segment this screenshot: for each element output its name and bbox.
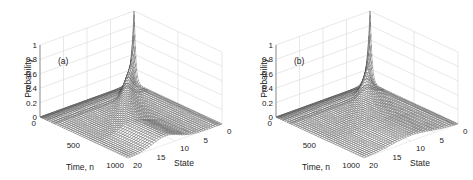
- time-tick-label: 500: [303, 141, 317, 150]
- state-tick-label: 10: [416, 144, 425, 153]
- state-tick-label: 20: [133, 161, 142, 170]
- surface-plot-a: 00.20.40.60.810500100005101520Probabilit…: [0, 0, 236, 180]
- mesh-surface: [276, 11, 458, 158]
- state-tick-label: 5: [204, 136, 209, 145]
- state-tick-label: 5: [440, 136, 445, 145]
- state-tick-label: 15: [393, 153, 402, 162]
- time-tick-label: 500: [67, 141, 81, 150]
- panel-label: (b): [294, 56, 305, 66]
- time-axis-label: Time, n: [302, 162, 330, 172]
- state-axis-label: State: [410, 158, 430, 168]
- surface-plot-b: 00.20.40.60.810500100005101520Probabilit…: [236, 0, 472, 180]
- time-tick-label: 0: [268, 119, 273, 128]
- z-tick-label: 1: [33, 41, 38, 50]
- plot-canvas-b: 00.20.40.60.810500100005101520Probabilit…: [236, 0, 472, 180]
- state-tick-label: 15: [157, 153, 166, 162]
- mesh-surface: [40, 11, 222, 158]
- time-tick-label: 1000: [342, 161, 360, 170]
- state-axis-label: State: [174, 158, 194, 168]
- time-tick-label: 0: [32, 119, 37, 128]
- z-tick-label: 1: [269, 41, 274, 50]
- state-tick-label: 0: [227, 127, 232, 136]
- time-axis-label: Time, n: [66, 162, 94, 172]
- z-axis-label: Probability: [259, 57, 269, 97]
- plot-canvas-a: 00.20.40.60.810500100005101520Probabilit…: [0, 0, 236, 180]
- state-tick-label: 10: [180, 144, 189, 153]
- z-tick-label: 0.2: [262, 99, 274, 108]
- z-tick-label: 0.2: [26, 99, 38, 108]
- state-tick-label: 20: [369, 161, 378, 170]
- panel-label: (a): [58, 56, 69, 66]
- state-tick-label: 0: [463, 127, 468, 136]
- z-axis-label: Probability: [23, 57, 33, 97]
- time-tick-label: 1000: [106, 161, 124, 170]
